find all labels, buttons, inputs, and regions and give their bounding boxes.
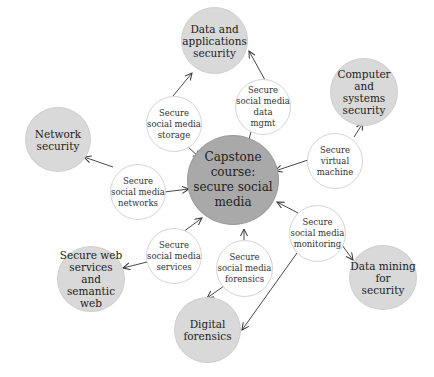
- edge-vm-to-center: [275, 160, 308, 171]
- node-label: Secure social media monitoring: [291, 217, 345, 250]
- node-social-media-forensics: Secure social media forensics: [216, 240, 273, 297]
- node-data-mining-security: Data mining for security: [349, 245, 417, 310]
- node-virtual-machine: Secure virtual machine: [307, 133, 363, 189]
- edge-services-to-web: [123, 262, 147, 268]
- node-center-capstone: Capstone course: secure social media: [187, 135, 279, 225]
- edge-monitoring-to-center: [277, 202, 298, 213]
- node-social-media-monitoring: Secure social media monitoring: [289, 205, 346, 262]
- edge-storage-to-data-apps: [173, 73, 192, 96]
- node-label: Capstone course: secure social media: [188, 150, 278, 210]
- node-computer-systems-security: Computer and systems security: [330, 58, 398, 126]
- node-label: Secure social media data mgmt: [236, 85, 290, 129]
- node-label: Secure web services and semantic web: [58, 249, 124, 309]
- edge-networks-to-network: [84, 157, 113, 167]
- node-label: Secure social media networks: [111, 176, 165, 209]
- node-social-media-networks: Secure social media networks: [110, 164, 166, 220]
- node-label: Secure social media forensics: [218, 252, 272, 285]
- node-label: Data and applications security: [182, 23, 247, 59]
- node-label: Secure virtual machine: [317, 145, 354, 178]
- node-social-media-data-mgmt: Secure social media data mgmt: [235, 79, 291, 135]
- edge-datamgmt-to-data-apps: [249, 51, 265, 80]
- node-label: Computer and systems security: [337, 68, 390, 116]
- edge-networks-to-center: [164, 189, 189, 192]
- node-social-media-services: Secure social media services: [146, 228, 202, 284]
- node-data-apps-security: Data and applications security: [181, 7, 248, 74]
- node-label: Digital forensics: [183, 318, 231, 342]
- node-label: Network security: [35, 128, 81, 152]
- node-digital-forensics: Digital forensics: [174, 297, 241, 363]
- node-label: Data mining for security: [350, 260, 415, 296]
- diagram-canvas: Capstone course: secure social media Dat…: [0, 0, 434, 377]
- node-label: Secure social media storage: [147, 108, 201, 141]
- node-secure-web-services: Secure web services and semantic web: [57, 246, 125, 312]
- node-network-security: Network security: [25, 107, 91, 172]
- node-social-media-storage: Secure social media storage: [146, 96, 202, 152]
- node-label: Secure social media services: [147, 240, 201, 273]
